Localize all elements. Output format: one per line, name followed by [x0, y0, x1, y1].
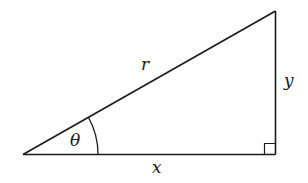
angle-arc	[89, 118, 99, 155]
hypotenuse-r	[23, 11, 276, 155]
right-angle-marker	[265, 144, 276, 155]
label-x: x	[152, 157, 162, 177]
label-y: y	[283, 70, 294, 90]
label-theta: θ	[70, 130, 80, 150]
label-r: r	[141, 54, 150, 74]
right-triangle-diagram: r y x θ	[0, 0, 308, 183]
